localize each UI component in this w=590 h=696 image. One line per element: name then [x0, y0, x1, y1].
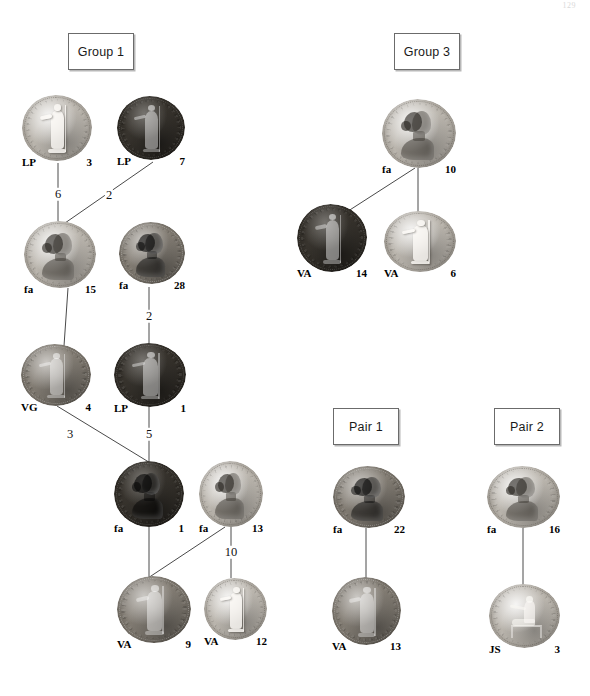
coin-rim	[116, 345, 184, 405]
coin-side-code: fa	[24, 284, 33, 295]
coin-side-code: fa	[114, 523, 123, 534]
coin-image[interactable]	[24, 221, 96, 288]
coin-side-code: fa	[382, 164, 391, 175]
coin-image[interactable]	[487, 466, 560, 528]
group-box-group-3[interactable]: Group 3	[394, 33, 460, 70]
coin-node-n-fa-22[interactable]: fa22	[333, 466, 405, 542]
coin-node-n-va-13[interactable]: VA13	[332, 577, 401, 659]
coin-rim	[334, 579, 399, 643]
coin-side-code: VG	[21, 402, 38, 413]
coin-die-number: 3	[555, 644, 561, 655]
coin-image[interactable]	[333, 466, 405, 528]
coin-node-n-fa-16[interactable]: fa16	[487, 466, 560, 542]
coin-rim	[206, 580, 265, 638]
coin-rim	[23, 346, 89, 404]
coin-rim	[116, 463, 182, 525]
coin-image[interactable]	[384, 211, 456, 272]
coin-side-code: LP	[114, 403, 128, 414]
edge-weight-e-2a: 2	[105, 189, 113, 202]
coin-image[interactable]	[21, 344, 91, 406]
coin-side-code: JS	[489, 644, 501, 655]
coin-image[interactable]	[332, 577, 401, 645]
group-label: Pair 2	[510, 420, 544, 434]
coin-image[interactable]	[117, 576, 191, 643]
coin-die-number: 13	[390, 641, 401, 652]
group-box-pair-2[interactable]: Pair 2	[494, 408, 560, 445]
coin-side-code: VA	[332, 641, 346, 652]
coin-die-number: 22	[394, 524, 405, 535]
diagram-page: 129 62235310 Group 1Group 3Pair 1Pair 2 …	[0, 0, 590, 696]
coin-rim	[491, 586, 558, 646]
edge-weight-e-6: 6	[54, 188, 62, 201]
coin-die-number: 13	[252, 523, 263, 534]
coin-die-number: 6	[451, 268, 457, 279]
coin-die-number: 9	[186, 639, 192, 650]
coin-side-code: fa	[333, 524, 342, 535]
group-label: Pair 1	[349, 420, 383, 434]
coin-image[interactable]	[204, 578, 267, 640]
coin-node-n-lp-1[interactable]: LP1	[114, 343, 186, 421]
page-folio: 129	[563, 1, 577, 10]
group-label: Group 3	[404, 45, 451, 59]
coin-rim	[489, 468, 558, 526]
edge-weight-e-10: 10	[224, 546, 239, 559]
coin-node-n-js-3[interactable]: JS3	[489, 584, 560, 662]
edge-weight-e-3b: 3	[66, 428, 74, 441]
coin-die-number: 7	[180, 156, 186, 167]
coin-die-number: 15	[85, 284, 96, 295]
coin-image[interactable]	[119, 222, 185, 284]
coin-rim	[121, 224, 183, 282]
coin-image[interactable]	[297, 204, 367, 272]
coin-side-code: VA	[297, 268, 311, 279]
coin-rim	[26, 223, 94, 286]
coin-node-n-va-12[interactable]: VA12	[204, 578, 267, 654]
coin-image[interactable]	[117, 96, 185, 160]
coin-side-code: fa	[199, 523, 208, 534]
coin-image[interactable]	[114, 461, 184, 527]
coin-side-code: fa	[119, 280, 128, 291]
edge-weight-e-2b: 2	[145, 310, 153, 323]
coin-node-n-va-14[interactable]: VA14	[297, 204, 367, 286]
coin-image[interactable]	[489, 584, 560, 648]
coin-node-n-fa-15[interactable]: fa15	[24, 221, 96, 302]
coin-side-code: VA	[117, 639, 131, 650]
group-box-group-1[interactable]: Group 1	[68, 33, 134, 70]
group-box-pair-1[interactable]: Pair 1	[333, 408, 399, 445]
coin-node-n-vg-4[interactable]: VG4	[21, 344, 91, 420]
coin-rim	[386, 213, 454, 270]
coin-node-n-lp-7[interactable]: LP7	[117, 96, 185, 174]
coin-die-number: 1	[179, 523, 185, 534]
coin-die-number: 16	[549, 524, 560, 535]
coin-side-code: VA	[204, 636, 218, 647]
coin-side-code: LP	[22, 157, 36, 168]
coin-rim	[24, 97, 90, 159]
group-label: Group 1	[78, 45, 125, 59]
coin-rim	[299, 206, 365, 270]
edge-weight-e-5: 5	[145, 428, 153, 441]
coin-image[interactable]	[199, 461, 263, 527]
coin-die-number: 1	[181, 403, 187, 414]
coin-node-n-fa-13[interactable]: fa13	[199, 461, 263, 541]
coin-node-n-lp-3[interactable]: LP3	[22, 95, 92, 175]
coin-rim	[119, 98, 183, 158]
coin-die-number: 14	[356, 268, 367, 279]
coin-node-n-fa-10[interactable]: fa10	[382, 99, 456, 182]
coin-node-n-fa-1[interactable]: fa1	[114, 461, 184, 541]
coin-die-number: 3	[87, 157, 93, 168]
coin-die-number: 12	[256, 636, 267, 647]
coin-die-number: 10	[445, 164, 456, 175]
coin-side-code: VA	[384, 268, 398, 279]
coin-rim	[119, 578, 189, 641]
coin-die-number: 4	[86, 402, 92, 413]
coin-side-code: fa	[487, 524, 496, 535]
coin-node-n-fa-28[interactable]: fa28	[119, 222, 185, 298]
coin-node-n-va-6[interactable]: VA6	[384, 211, 456, 286]
coin-image[interactable]	[114, 343, 186, 407]
coin-rim	[201, 463, 261, 525]
coin-rim	[335, 468, 403, 526]
coin-die-number: 28	[174, 280, 185, 291]
coin-image[interactable]	[22, 95, 92, 161]
coin-image[interactable]	[382, 99, 456, 168]
coin-node-n-va-9[interactable]: VA9	[117, 576, 191, 657]
coin-side-code: LP	[117, 156, 131, 167]
